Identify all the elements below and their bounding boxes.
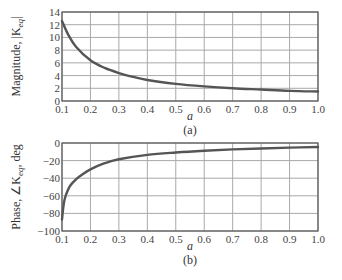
plot-frame: [62, 143, 318, 231]
x-tick-label: 0.6: [197, 233, 211, 245]
x-tick-label: 0.4: [140, 103, 154, 115]
x-tick-label: 0.8: [254, 103, 268, 115]
x-tick-label: 0.7: [226, 233, 240, 245]
y-tick-labels: 02468101214: [49, 6, 61, 107]
panel-a: 02468101214 0.10.20.30.40.50.60.70.80.91…: [9, 6, 325, 137]
x-axis-label: a: [187, 239, 193, 253]
x-axis-label: a: [187, 109, 193, 123]
grid-lines: [62, 12, 318, 101]
y-tick-label: 14: [49, 6, 61, 18]
y-tick-label: −60: [43, 190, 61, 202]
x-tick-label: 0.7: [226, 103, 240, 115]
x-tick-label: 1.0: [311, 233, 325, 245]
y-axis-label: Magnitude, |Keq|: [9, 17, 25, 97]
x-tick-label: 1.0: [311, 103, 325, 115]
y-tick-label: 6: [55, 57, 61, 69]
x-tick-label: 0.1: [55, 233, 69, 245]
x-tick-label: 0.8: [254, 233, 268, 245]
x-tick-label: 0.1: [55, 103, 69, 115]
x-tick-label: 0.4: [140, 233, 154, 245]
y-axis-label-suffix: , deg: [9, 144, 23, 167]
panel-label: (b): [183, 253, 197, 267]
panel-b: 0−20−40−60−80−100 0.10.20.30.40.50.60.70…: [9, 137, 325, 267]
y-tick-label: −80: [43, 207, 61, 219]
phase-curve: [62, 147, 318, 220]
y-tick-labels: 0−20−40−60−80−100: [37, 137, 60, 237]
y-axis-label: Phase, ∠Keq, deg: [9, 144, 25, 230]
y-tick-label: 0: [55, 137, 61, 149]
x-tick-label: 0.9: [283, 103, 297, 115]
y-tick-label: −40: [43, 172, 61, 184]
magnitude-curve: [62, 21, 318, 92]
y-tick-label: 4: [55, 70, 61, 82]
figure: 02468101214 0.10.20.30.40.50.60.70.80.91…: [0, 0, 342, 280]
y-tick-label: 8: [55, 44, 61, 56]
panel-label: (a): [183, 123, 196, 137]
y-axis-label-suffix: |: [9, 17, 23, 19]
x-tick-label: 0.3: [112, 233, 126, 245]
x-tick-label: 0.2: [84, 233, 98, 245]
y-tick-label: 10: [49, 31, 61, 43]
y-tick-label: 2: [55, 82, 61, 94]
y-tick-label: −20: [43, 155, 61, 167]
y-tick-label: 12: [49, 19, 60, 31]
x-tick-label: 0.3: [112, 103, 126, 115]
y-axis-label-prefix: Magnitude, |K: [9, 27, 23, 96]
y-axis-label-prefix: Phase, ∠K: [9, 176, 23, 230]
x-tick-label: 0.5: [169, 233, 183, 245]
grid-lines: [62, 143, 318, 231]
x-tick-label: 0.5: [169, 103, 183, 115]
x-tick-label: 0.2: [84, 103, 98, 115]
x-tick-label: 0.6: [197, 103, 211, 115]
x-tick-label: 0.9: [283, 233, 297, 245]
plot-frame: [62, 12, 318, 101]
